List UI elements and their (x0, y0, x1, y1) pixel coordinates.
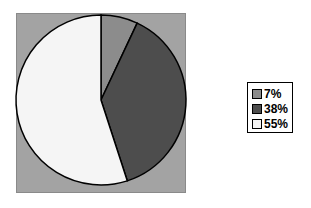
legend: 7% 38% 55% (247, 82, 293, 133)
legend-label: 55% (264, 117, 288, 131)
legend-swatch (252, 104, 262, 114)
legend-item: 55% (252, 116, 292, 131)
legend-item: 7% (252, 86, 292, 101)
legend-label: 38% (264, 102, 288, 116)
legend-label: 7% (264, 87, 281, 101)
legend-swatch (252, 119, 262, 129)
legend-item: 38% (252, 101, 292, 116)
legend-swatch (252, 89, 262, 99)
